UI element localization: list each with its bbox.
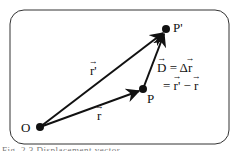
label-origin: O — [21, 121, 30, 134]
label-p-prime: P' — [173, 21, 183, 34]
vector-symbol-r: r — [97, 109, 101, 122]
diagram-canvas — [0, 0, 239, 151]
eq-r-prime-symbol: r' — [174, 79, 181, 92]
vector-symbol-r-prime: r' — [90, 64, 97, 77]
point-p-dot — [139, 85, 147, 93]
vector-r — [40, 91, 139, 127]
point-p-prime-dot — [162, 25, 170, 33]
figure-caption: Fig. 2.3 Displacement vector — [2, 145, 120, 151]
point-o-dot — [36, 123, 44, 131]
label-p: P — [147, 92, 154, 105]
eq-d-symbol: D — [157, 61, 166, 74]
label-r: r — [97, 109, 101, 122]
equation-line-2: = r' − r — [163, 79, 198, 92]
label-r-prime: r' — [90, 64, 97, 77]
vector-r-prime — [40, 33, 163, 127]
eq-r-symbol-2: r — [194, 79, 198, 92]
